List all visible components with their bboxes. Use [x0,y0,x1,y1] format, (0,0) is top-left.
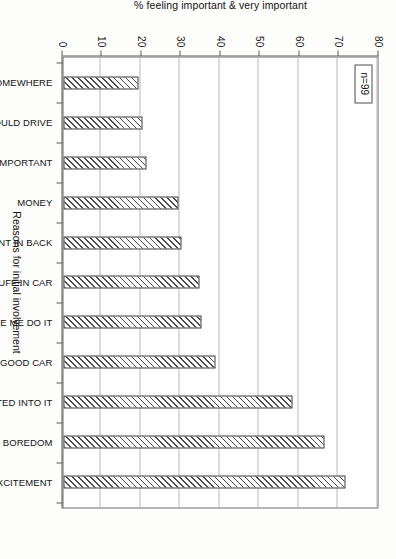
value-axis-tick [259,50,260,56]
bar-slot [63,143,377,183]
category-axis-tick [56,62,62,63]
bar-slot [63,182,377,222]
value-axis-tick [338,50,339,56]
category-axis-label: JUST WENT IN BACK [0,237,52,248]
bar [63,355,215,368]
sample-size-annotation: n=99 [354,64,372,103]
category-label-slot: MONEY [22,182,52,222]
category-axis-tick [56,462,62,463]
scanned-figure-rotor: % feeling important & very important 010… [0,0,396,559]
category-axis-tick [56,262,62,263]
category-axis-label: GOOD CAR [0,357,52,368]
bar [63,236,182,249]
value-axis-tick-label: 0 [57,41,68,47]
bar-slot [63,342,377,382]
value-axis-tick-label: 20 [136,35,147,47]
category-axis-label: FEEL IMPORTANT [0,157,52,168]
bar [63,475,345,488]
category-label-slot: GOOD STUFF IN CAR [22,262,52,302]
value-axis-tick-label: 10 [96,35,107,47]
bar [63,435,324,448]
value-axis-tick [298,50,299,56]
value-axis-tick-label: 40 [215,35,226,47]
bar [63,116,142,129]
category-label-slot: JUST WENT IN BACK [22,222,52,262]
bar-slot [63,222,377,262]
value-axis-tick-label: 70 [333,35,344,47]
category-axis-labels: TO GO SOMEWHERESHOW I COULD DRIVEFEEL IM… [22,56,52,508]
value-axis-tick-label: 80 [373,35,384,47]
category-axis-label: MATES MADE ME DO IT [0,317,52,328]
category-axis-label: GOOD STUFF IN CAR [0,277,52,288]
category-label-slot: EXCITEMENT [22,462,52,502]
category-axis-tick [56,102,62,103]
category-axis-label: DRIFTED INTO IT [0,397,52,408]
plot-area [62,56,378,508]
category-axis-tick [56,222,62,223]
category-label-slot: MATES MADE ME DO IT [22,302,52,342]
value-axis-tick [180,50,181,56]
bar [63,315,201,328]
category-label-slot: GOOD CAR [22,342,52,382]
bar-slot [63,103,377,143]
category-label-slot: BOREDOM [22,422,52,462]
value-axis-tick-label: 30 [175,35,186,47]
category-axis-line [61,56,62,508]
category-axis-tick [56,342,62,343]
bar-series [63,57,377,507]
bar [63,196,178,209]
bar-chart-figure: % feeling important & very important 010… [0,0,396,559]
value-axis-tick-label: 60 [294,35,305,47]
value-axis-title-label: % feeling important & very important [134,0,307,10]
category-axis-tick [56,182,62,183]
bar-slot [63,262,377,302]
value-axis: 01020304050607080 [62,36,378,56]
category-label-slot: SHOW I COULD DRIVE [22,102,52,142]
bar-slot [63,421,377,461]
value-axis-tick [61,50,62,56]
value-axis-tick-label: 50 [254,35,265,47]
bar-slot [63,461,377,501]
bar-slot [63,382,377,422]
category-label-slot: DRIFTED INTO IT [22,382,52,422]
bar [63,156,146,169]
bar [63,275,199,288]
bar-slot [63,63,377,103]
value-axis-title: % feeling important & very important [62,0,378,12]
category-axis [54,56,62,508]
category-axis-title: Reasons for initial involvement [10,56,22,508]
bar-slot [63,302,377,342]
value-axis-tick [377,50,378,56]
category-axis-tick [56,382,62,383]
category-label-slot: TO GO SOMEWHERE [22,62,52,102]
category-axis-label: EXCITEMENT [0,477,52,488]
category-axis-tick [56,502,62,503]
value-axis-tick [219,50,220,56]
bar [63,76,138,89]
category-axis-label: TO GO SOMEWHERE [0,77,52,88]
category-axis-label: SHOW I COULD DRIVE [0,117,52,128]
value-axis-tick [101,50,102,56]
category-label-slot: FEEL IMPORTANT [22,142,52,182]
category-axis-tick [56,302,62,303]
bar [63,395,292,408]
category-axis-tick [56,142,62,143]
value-axis-tick [140,50,141,56]
category-axis-tick [56,422,62,423]
